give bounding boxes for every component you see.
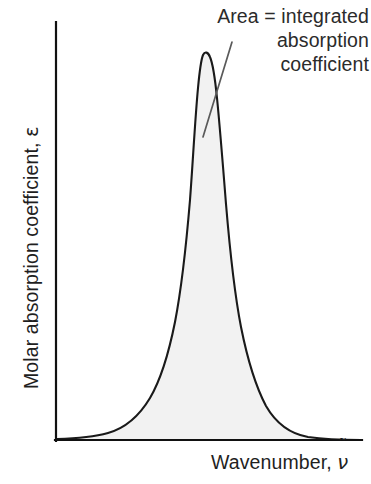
tilde-accent: ˜	[340, 437, 346, 455]
annotation-line-2: absorption	[181, 28, 369, 52]
x-axis-title-text: Wavenumber,	[211, 451, 337, 473]
epsilon-symbol: ε	[20, 126, 43, 137]
y-axis-title: Molar absorption coefficient, ε	[13, 0, 49, 389]
nu-tilde-symbol: ˜ν	[337, 448, 348, 477]
x-axis-title: Wavenumber, ˜ν	[211, 448, 348, 477]
annotation-line-3: coefficient	[181, 52, 369, 76]
absorption-band-area-fill	[57, 53, 361, 440]
area-annotation: Area = integrated absorption coefficient	[181, 4, 369, 77]
figure-root: Area = integrated absorption coefficient…	[0, 0, 371, 484]
y-axis-title-text: Molar absorption coefficient,	[20, 137, 42, 389]
annotation-line-1: Area = integrated	[181, 4, 369, 28]
